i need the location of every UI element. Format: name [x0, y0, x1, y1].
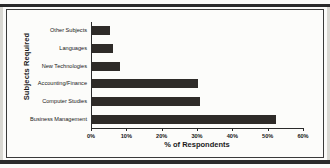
- bar-row: Computer Studies: [91, 93, 303, 111]
- x-axis-title: % of Respondents: [91, 140, 303, 149]
- category-label: New Technologies: [42, 61, 87, 72]
- scan-artifact-left-edge: [0, 7, 3, 160]
- x-axis-tick: [303, 128, 304, 131]
- x-axis-tick: [197, 128, 198, 131]
- bar: [92, 79, 198, 88]
- x-axis-tick-label: 20%: [156, 133, 167, 139]
- x-axis-tick: [232, 128, 233, 131]
- category-label: Other Subjects: [50, 25, 87, 36]
- x-axis-tick-label: 50%: [262, 133, 273, 139]
- category-label: Computer Studies: [42, 96, 87, 107]
- bar: [92, 62, 120, 71]
- x-axis-tick-label: 40%: [227, 133, 238, 139]
- bar: [92, 26, 110, 35]
- x-axis-tick: [91, 128, 92, 131]
- category-label: Business Management: [30, 114, 87, 125]
- x-axis-tick: [268, 128, 269, 131]
- x-axis-tick: [126, 128, 127, 131]
- bar: [92, 97, 200, 106]
- plot-inner: Other SubjectsLanguagesNew TechnologiesA…: [91, 22, 303, 128]
- chart-frame: Subjects Required Other SubjectsLanguage…: [6, 9, 324, 158]
- category-label: Languages: [59, 43, 87, 54]
- scan-artifact-bottom-band: [0, 160, 330, 164]
- bar-row: Languages: [91, 40, 303, 58]
- plot-area: Other SubjectsLanguagesNew TechnologiesA…: [91, 22, 303, 128]
- scan-artifact-top-band: [0, 4, 330, 7]
- x-axis-tick-label: 10%: [121, 133, 132, 139]
- x-axis-tick-label: 0%: [87, 133, 95, 139]
- bar-row: Accounting/Finance: [91, 75, 303, 93]
- x-axis-tick-label: 60%: [297, 133, 308, 139]
- chart-page: Subjects Required Other SubjectsLanguage…: [0, 0, 330, 168]
- bar: [92, 44, 113, 53]
- x-axis-tick: [162, 128, 163, 131]
- x-axis-tick-label: 30%: [191, 133, 202, 139]
- bar-row: Business Management: [91, 110, 303, 128]
- category-label: Accounting/Finance: [38, 78, 87, 89]
- y-axis-title: Subjects Required: [22, 7, 31, 127]
- bar-row: Other Subjects: [91, 22, 303, 40]
- bar-row: New Technologies: [91, 57, 303, 75]
- bar: [92, 115, 276, 124]
